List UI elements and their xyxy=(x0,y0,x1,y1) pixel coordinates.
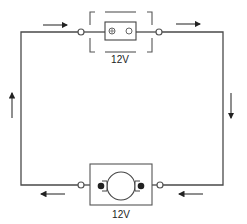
motor-label: 12V xyxy=(112,209,130,220)
motor-icon xyxy=(90,164,152,205)
circuit-diagram: 12V 12V xyxy=(0,0,247,224)
switch-label: 12V xyxy=(111,54,129,65)
